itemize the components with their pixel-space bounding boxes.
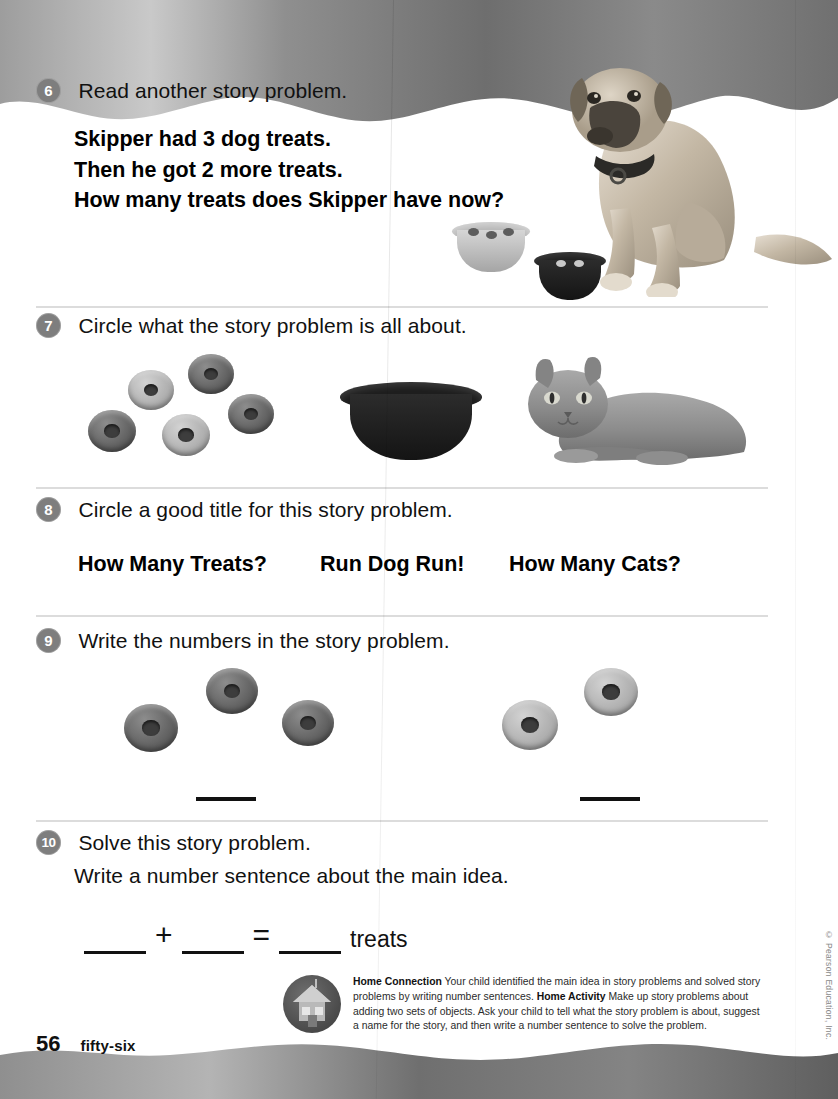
section-divider — [36, 487, 768, 489]
treat — [228, 394, 274, 434]
treat — [162, 414, 210, 456]
exercise-10: 10 Solve this story problem. Write a num… — [36, 830, 509, 888]
title-choice-3[interactable]: How Many Cats? — [509, 552, 681, 577]
title-choice-2[interactable]: Run Dog Run! — [320, 552, 503, 577]
answer-blank-right[interactable] — [580, 797, 640, 801]
dark-bowl-with-2-treats — [534, 252, 606, 300]
treat — [282, 700, 334, 746]
empty-bowl-choice[interactable] — [340, 382, 482, 460]
home-activity-heading: Home Activity — [537, 991, 606, 1002]
title-choice-1[interactable]: How Many Treats? — [78, 552, 314, 577]
exercise-number-badge: 8 — [36, 497, 61, 522]
home-connection-box: Home Connection Your child identified th… — [283, 975, 763, 1034]
section-divider — [36, 306, 768, 308]
number-sentence: + = treats — [84, 920, 408, 954]
exercise-9: 9 Write the numbers in the story problem… — [36, 628, 450, 653]
treat-in-bowl — [556, 260, 566, 267]
equals-sign: = — [253, 920, 271, 954]
exercise-number-badge: 9 — [36, 628, 61, 653]
treat-in-bowl — [468, 228, 479, 236]
home-connection-text: Home Connection Your child identified th… — [353, 975, 763, 1034]
exercise-7: 7 Circle what the story problem is all a… — [36, 313, 467, 338]
story-line-3: How many treats does Skipper have now? — [74, 185, 504, 216]
exercise-number-badge: 6 — [36, 78, 61, 103]
addend-2-blank[interactable] — [182, 929, 244, 954]
treat — [206, 668, 258, 714]
story-line-2: Then he got 2 more treats. — [74, 155, 504, 186]
addend-1-blank[interactable] — [84, 929, 146, 954]
page-number-digits: 56 — [36, 1031, 60, 1056]
exercise-prompt: Read another story problem. — [78, 79, 347, 103]
story-line-1: Skipper had 3 dog treats. — [74, 124, 504, 155]
treat-in-bowl — [574, 260, 584, 267]
title-choices: How Many Treats? Run Dog Run! How Many C… — [78, 552, 681, 577]
plus-sign: + — [155, 920, 173, 954]
five-treats-choice[interactable] — [80, 352, 330, 462]
page-number-word: fifty-six — [80, 1037, 135, 1054]
exercise-number-badge: 7 — [36, 313, 61, 338]
exercise-prompt: Circle what the story problem is all abo… — [78, 314, 466, 338]
scan-seam-edge — [795, 0, 796, 1099]
section-divider — [36, 615, 768, 617]
story-problem-text: Skipper had 3 dog treats. Then he got 2 … — [74, 124, 504, 216]
home-connection-heading: Home Connection — [353, 976, 442, 987]
cat-photo-choice[interactable] — [512, 352, 762, 470]
exercise-prompt: Write the numbers in the story problem. — [78, 629, 449, 653]
exercise-prompt-line-1: Solve this story problem. — [78, 831, 310, 855]
treat — [584, 668, 638, 716]
copyright-notice: © Pearson Education, Inc. — [824, 930, 834, 1040]
treat — [128, 370, 174, 410]
treat-group-left — [118, 668, 348, 758]
exercise-prompt: Circle a good title for this story probl… — [78, 498, 452, 522]
exercise-prompt-line-2: Write a number sentence about the main i… — [74, 864, 509, 888]
treat — [188, 354, 234, 394]
treat — [124, 704, 178, 752]
worksheet-page: 6 Read another story problem. Skipper ha… — [0, 0, 838, 1099]
treat-group-right — [498, 668, 658, 758]
exercise-8: 8 Circle a good title for this story pro… — [36, 497, 681, 577]
light-bowl-with-3-treats — [452, 222, 530, 272]
section-divider — [36, 820, 768, 822]
answer-blank-left[interactable] — [196, 797, 256, 801]
exercise-6: 6 Read another story problem. Skipper ha… — [36, 78, 504, 216]
bowl-body — [350, 394, 472, 460]
house-icon — [283, 975, 341, 1033]
page-number: 56fifty-six — [36, 1031, 136, 1057]
treat — [88, 410, 136, 452]
bowl-body — [539, 260, 601, 300]
exercise-number-badge: 10 — [36, 830, 61, 855]
treat — [502, 700, 558, 750]
sum-blank[interactable] — [279, 929, 341, 954]
